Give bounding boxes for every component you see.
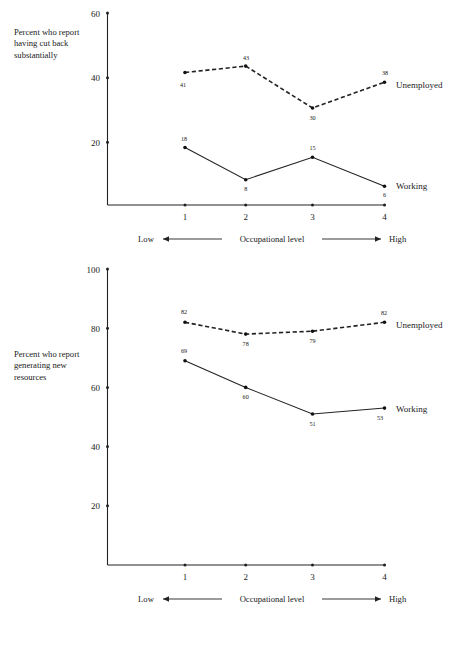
top-chart-point-working-4: [383, 184, 387, 188]
bottom-chart-xtick-label-4: 4: [382, 572, 387, 582]
bottom-chart-point-unemployed-2: [244, 332, 248, 336]
bottom-chart-ytick-label-60: 60: [91, 383, 101, 393]
top-chart-ytick-label-20: 20: [91, 138, 101, 148]
bottom-chart-ytick-label-80: 80: [91, 324, 101, 334]
top-chart-datalabel-working-2: 8: [244, 185, 247, 192]
top-chart-xtick-dot-2: [244, 204, 247, 207]
bottom-chart-ytick-dot-20: [106, 504, 109, 507]
top-chart-datalabel-unemployed-3: 30: [309, 114, 315, 121]
bottom-chart-series-unemployed-line: [185, 322, 385, 334]
top-chart-xtick-label-1: 1: [183, 212, 188, 222]
top-chart-ytick-label-40: 40: [91, 73, 101, 83]
top-chart-xtick-dot-1: [184, 204, 187, 207]
bottom-chart-xtick-dot-3: [311, 564, 314, 567]
bottom-chart-left-arrow-icon: [163, 596, 222, 601]
bottom-chart-point-unemployed-1: [183, 321, 187, 325]
top-chart-xtick-dot-3: [311, 204, 314, 207]
top-chart-xtick-label-4: 4: [382, 212, 387, 222]
bottom-chart-point-unemployed-3: [311, 329, 315, 333]
bottom-chart-xaxis-low-label: Low: [138, 594, 155, 604]
bottom-chart-ytick-dot-60: [106, 386, 109, 389]
top-chart-right-arrow-icon: [322, 236, 381, 241]
top-chart-ytick-label-60: 60: [91, 9, 101, 19]
top-chart-datalabel-unemployed-4: 38: [382, 69, 388, 76]
bottom-chart-datalabel-working-1: 69: [181, 347, 187, 354]
top-chart-point-working-3: [311, 155, 315, 159]
bottom-chart-point-working-4: [383, 406, 387, 410]
bottom-chart-datalabel-unemployed-2: 78: [243, 340, 249, 347]
top-chart-point-unemployed-4: [383, 80, 387, 84]
bottom-chart-point-working-1: [183, 359, 187, 363]
top-chart-left-arrow-icon: [163, 236, 222, 241]
top-chart-datalabel-working-1: 18: [181, 135, 187, 142]
top-chart-ytick-dot-20: [106, 141, 109, 144]
bottom-chart-xtick-dot-2: [244, 564, 247, 567]
bottom-chart-ytick-label-100: 100: [87, 265, 101, 275]
bottom-chart-point-working-2: [244, 386, 248, 390]
bottom-chart-ytick-label-40: 40: [91, 442, 101, 452]
top-chart-ytick-dot-60: [106, 12, 109, 15]
top-chart-point-working-1: [183, 146, 187, 150]
bottom-chart-ytick-dot-40: [106, 445, 109, 448]
top-chart-xaxis-title: Occupational level: [240, 234, 305, 244]
bottom-chart-xaxis-high-label: High: [389, 594, 407, 604]
top-chart-xaxis-high-label: High: [389, 234, 407, 244]
bottom-chart-datalabel-working-3: 51: [309, 420, 315, 427]
bottom-chart-ytick-dot-100: [106, 268, 109, 271]
bottom-chart-series-label-working: Working: [396, 404, 428, 414]
top-chart-point-unemployed-1: [183, 71, 187, 75]
bottom-chart-xtick-label-1: 1: [183, 572, 188, 582]
bottom-chart-point-unemployed-4: [383, 321, 387, 325]
top-chart-point-unemployed-2: [244, 64, 248, 68]
bottom-chart-xtick-dot-4: [383, 564, 386, 567]
bottom-chart-datalabel-unemployed-3: 79: [309, 337, 315, 344]
bottom-chart-datalabel-working-4: 53: [377, 414, 383, 421]
bottom-chart-series-label-unemployed: Unemployed: [396, 320, 443, 330]
bottom-chart-xtick-label-3: 3: [310, 572, 315, 582]
top-chart-xtick-label-2: 2: [243, 212, 248, 222]
figure-two-line-charts: Percent who report having cut back subst…: [0, 0, 449, 646]
top-chart-series-label-unemployed: Unemployed: [396, 80, 443, 90]
bottom-chart-ytick-dot-80: [106, 327, 109, 330]
top-chart-point-working-2: [244, 178, 248, 182]
bottom-chart-xaxis-title: Occupational level: [240, 594, 305, 604]
bottom-chart-ytick-label-20: 20: [91, 501, 101, 511]
top-chart-xtick-dot-4: [383, 204, 386, 207]
bottom-chart: 100 80 60 40 20 1 2 3 4 82 78 79 82 Unem…: [0, 260, 449, 646]
top-chart-xaxis-low-label: Low: [138, 234, 155, 244]
top-chart-point-unemployed-3: [311, 106, 315, 110]
top-chart-datalabel-unemployed-2: 43: [243, 54, 249, 61]
top-chart-xtick-label-3: 3: [310, 212, 315, 222]
bottom-chart-xtick-label-2: 2: [243, 572, 248, 582]
bottom-chart-point-working-3: [311, 412, 315, 416]
bottom-chart-datalabel-unemployed-4: 82: [381, 309, 387, 316]
bottom-chart-right-arrow-icon: [322, 596, 381, 601]
top-chart-datalabel-working-4: 6: [383, 191, 386, 198]
bottom-chart-series-working-line: [185, 361, 385, 414]
bottom-chart-datalabel-unemployed-1: 82: [181, 308, 187, 315]
top-chart: 60 40 20 1 2 3 4 41 43 30 38 Unemployed …: [0, 0, 449, 260]
top-chart-datalabel-working-3: 15: [309, 144, 315, 151]
top-chart-ytick-dot-40: [106, 76, 109, 79]
top-chart-datalabel-unemployed-1: 41: [180, 81, 186, 88]
top-chart-series-label-working: Working: [396, 181, 428, 191]
top-chart-series-working-line: [185, 148, 385, 187]
bottom-chart-datalabel-working-2: 60: [243, 393, 249, 400]
bottom-chart-xtick-dot-1: [184, 564, 187, 567]
top-chart-series-unemployed-line: [185, 66, 385, 108]
